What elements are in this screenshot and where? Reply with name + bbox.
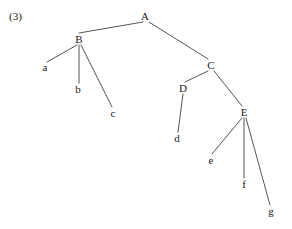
tree-node-d: d (174, 133, 180, 144)
tree-edge-a-c (149, 22, 208, 59)
tree-node-a: a (43, 62, 48, 73)
tree-edge-b-a (47, 45, 77, 62)
tree-node-g: g (268, 206, 274, 217)
tree-node-c: c (111, 108, 116, 119)
tree-node-e: E (241, 107, 248, 118)
tree-node-e: e (209, 155, 214, 166)
tree-node-a: A (141, 11, 149, 22)
tree-node-c: C (207, 60, 214, 71)
tree-edge-b-c (81, 45, 112, 107)
tree-edges-layer (0, 0, 292, 229)
item-number: (3) (9, 10, 22, 22)
tree-node-f: f (242, 179, 246, 190)
tree-node-b: B (75, 34, 82, 45)
tree-node-d: D (179, 83, 187, 94)
tree-edge-a-b (79, 22, 143, 33)
tree-edge-e-g (246, 118, 270, 205)
tree-edge-c-e (214, 71, 242, 106)
tree-edge-d-d (178, 94, 183, 132)
tree-edge-c-d (185, 71, 208, 82)
tree-node-b: b (75, 84, 81, 95)
figure-canvas: ABCDEabcdefg (3) (0, 0, 292, 229)
tree-edge-e-e (212, 118, 242, 154)
